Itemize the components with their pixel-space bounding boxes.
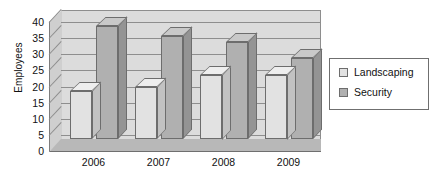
legend-label-landscaping: Landscaping: [354, 67, 414, 78]
y-tick-label: 25: [32, 65, 44, 75]
bar-side-face: [157, 78, 166, 139]
y-tick-label: 0: [38, 146, 44, 156]
legend-swatch-security: [339, 88, 348, 97]
x-tick-label: 2009: [277, 156, 300, 168]
bar-landscaping-2009: [265, 75, 287, 140]
y-tick-label: 30: [32, 49, 44, 59]
bar-side-face: [313, 49, 322, 139]
bar-landscaping-2007: [135, 87, 157, 139]
y-tick-label: 20: [32, 82, 44, 92]
bar-landscaping-2006: [70, 91, 92, 139]
bar-side-face: [183, 26, 192, 139]
bar-side-face: [118, 16, 127, 139]
x-axis-tick-labels: 2006200720082009: [49, 156, 321, 176]
plot-area: [49, 10, 321, 152]
y-tick-label: 40: [32, 17, 44, 27]
x-tick-label: 2006: [82, 156, 105, 168]
legend-item-landscaping: Landscaping: [339, 67, 414, 78]
x-tick-label: 2008: [212, 156, 235, 168]
x-tick-label: 2007: [147, 156, 170, 168]
y-tick-label: 35: [32, 33, 44, 43]
bar-front-face: [200, 75, 222, 140]
y-tick-label: 15: [32, 98, 44, 108]
bar-front-face: [70, 91, 92, 139]
bar-chart: Employees 0510152025303540 2006200720082…: [0, 0, 435, 193]
plot-side-wall: [49, 10, 62, 152]
chart-legend: Landscaping Security: [329, 58, 429, 110]
bar-side-face: [248, 33, 257, 139]
y-tick-label: 5: [38, 130, 44, 140]
legend-swatch-landscaping: [339, 68, 348, 77]
y-axis-tick-labels: 0510152025303540: [18, 10, 44, 152]
legend-label-security: Security: [354, 87, 392, 98]
plot-floor: [49, 139, 321, 152]
y-tick-label: 10: [32, 114, 44, 124]
bar-front-face: [265, 75, 287, 140]
bar-side-face: [287, 65, 296, 139]
bar-side-face: [222, 65, 231, 139]
legend-item-security: Security: [339, 87, 392, 98]
bar-landscaping-2008: [200, 75, 222, 140]
bar-front-face: [135, 87, 157, 139]
